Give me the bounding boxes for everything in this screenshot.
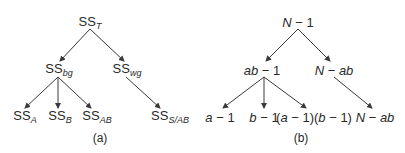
- edge-n1-ab1: [266, 29, 298, 61]
- edge-ssbg-ssa: [25, 77, 58, 108]
- edge-sst-ssbg: [60, 29, 90, 61]
- edge-n1-nab: [298, 29, 330, 61]
- edge-nab-nab: [334, 77, 372, 108]
- edge-ab1-a1: [223, 77, 264, 108]
- node-df-within-leaf: N − ab: [356, 111, 395, 124]
- edge-sst-sswg: [90, 29, 124, 61]
- node-df-a: a − 1: [205, 111, 234, 124]
- node-ss-ab: SSAB: [82, 109, 111, 125]
- node-df-b: b − 1: [249, 111, 278, 124]
- node-df-ab: (a − 1)(b − 1): [276, 111, 352, 124]
- edge-sswg-sssab: [126, 77, 160, 108]
- node-df-between: ab − 1: [244, 64, 281, 77]
- node-ss-s-ab: SSS/AB: [151, 109, 189, 125]
- edge-ab1-ab: [264, 77, 306, 108]
- node-df-within: N − ab: [315, 64, 354, 77]
- caption-b: (b): [294, 131, 309, 145]
- node-ss-between-groups: SSbg: [45, 62, 72, 78]
- node-df-total: N − 1: [282, 16, 313, 29]
- caption-a: (a): [93, 131, 108, 145]
- node-ss-b: SSB: [48, 109, 71, 125]
- node-ss-total: SST: [79, 15, 102, 31]
- node-ss-a: SSA: [13, 109, 36, 125]
- node-ss-within-groups: SSwg: [113, 62, 142, 78]
- edge-ssbg-ssab: [58, 77, 91, 108]
